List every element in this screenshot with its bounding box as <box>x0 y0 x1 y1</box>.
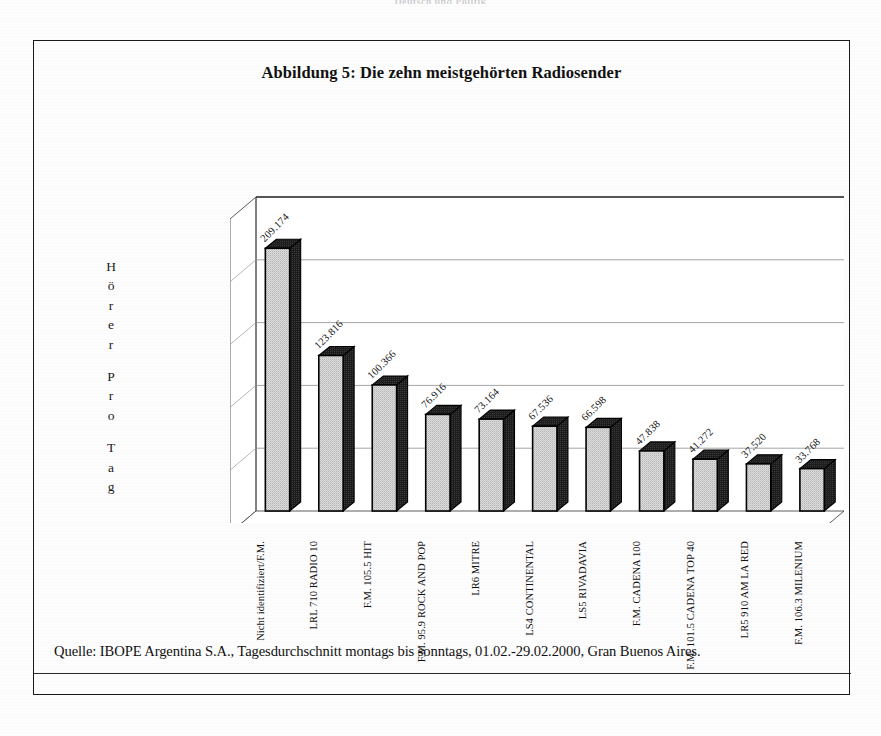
caption-divider <box>34 673 851 674</box>
y-axis-title-char: g <box>96 477 126 496</box>
category-label: F.M. 106.3 MILENIUM <box>793 541 804 645</box>
bar <box>640 442 675 511</box>
category-label: LS5 RIVADAVIA <box>577 541 588 619</box>
y-axis-title-char: a <box>96 458 126 477</box>
y-axis-title-char: r <box>96 296 126 315</box>
category-label: LRL 710 RADIO 10 <box>308 541 319 629</box>
bar <box>800 460 835 511</box>
y-axis-title-char: T <box>96 438 126 457</box>
y-axis-title-gap <box>96 354 126 367</box>
bar <box>265 239 300 511</box>
bar <box>533 417 568 511</box>
figure-frame: Abbildung 5: Die zehn meistgehörten Radi… <box>33 40 850 695</box>
bar <box>479 410 514 511</box>
category-label-layer: Nicht identifiziert/F.M.LRL 710 RADIO 10… <box>230 531 850 701</box>
running-head: Deutsch und Politik <box>0 0 881 4</box>
category-label: F.M. CADENA 100 <box>631 541 642 626</box>
y-axis-title-char: ö <box>96 276 126 295</box>
bar-chart: 209.174123.816100.36676.91673.16467.5366… <box>230 157 850 523</box>
y-axis-title-char: H <box>96 257 126 276</box>
y-axis-title-char: r <box>96 386 126 405</box>
figure-caption: Quelle: IBOPE Argentina S.A., Tagesdurch… <box>54 643 834 660</box>
category-label: F.M. 105.5 HIT <box>362 541 373 608</box>
y-axis-title-gap <box>96 425 126 438</box>
bar <box>372 376 407 511</box>
category-label: LR5 910 AM LA RED <box>739 541 750 638</box>
category-label: Nicht identifiziert/F.M. <box>255 541 266 641</box>
bar <box>746 455 781 511</box>
y-axis-title: HörerProTag <box>96 257 126 496</box>
category-label: LS4 CONTINENTAL <box>524 541 535 636</box>
bar <box>319 346 354 511</box>
y-axis-title-char: o <box>96 406 126 425</box>
y-axis-title-char: e <box>96 315 126 334</box>
bar <box>586 418 621 511</box>
y-axis-title-char: P <box>96 367 126 386</box>
y-axis-title-char: r <box>96 335 126 354</box>
category-label: LR6 MITRE <box>470 541 481 596</box>
bar <box>693 450 728 511</box>
bar <box>426 405 461 511</box>
figure-title: Abbildung 5: Die zehn meistgehörten Radi… <box>34 63 849 83</box>
